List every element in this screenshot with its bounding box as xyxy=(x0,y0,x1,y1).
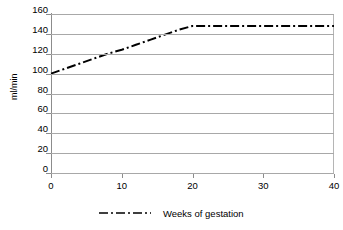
dash-dot-line-icon xyxy=(99,208,151,218)
y-tick-mark-140 xyxy=(46,34,51,35)
gridline-y-40 xyxy=(51,133,334,134)
chart-container: ml/min 020406080100120140160 Weeks of ge… xyxy=(0,0,343,230)
y-tick-mark-40 xyxy=(46,133,51,134)
y-tick-mark-100 xyxy=(46,74,51,75)
gridline-y-120 xyxy=(51,54,334,55)
y-tick-label-80: 80 xyxy=(22,85,48,95)
y-tick-label-140: 140 xyxy=(22,25,48,35)
x-tick-label-0: 0 xyxy=(36,180,66,191)
gridline-y-160 xyxy=(51,14,334,15)
y-tick-label-60: 60 xyxy=(22,104,48,114)
gridline-y-20 xyxy=(51,153,334,154)
plot-area xyxy=(51,14,334,173)
x-tick-label-10: 10 xyxy=(107,180,137,191)
y-tick-mark-80 xyxy=(46,94,51,95)
y-axis-title: ml/min xyxy=(9,40,19,100)
chart-legend: Weeks of gestation xyxy=(99,205,244,221)
x-tick-mark-40 xyxy=(334,174,335,178)
x-tick-label-40: 40 xyxy=(319,180,343,191)
y-tick-label-20: 20 xyxy=(22,144,48,154)
y-tick-label-100: 100 xyxy=(22,65,48,75)
x-tick-mark-0 xyxy=(51,174,52,178)
y-tick-label-160: 160 xyxy=(22,5,48,15)
y-tick-mark-20 xyxy=(46,153,51,154)
gridline-y-60 xyxy=(51,113,334,114)
gridline-y-80 xyxy=(51,94,334,95)
y-tick-mark-60 xyxy=(46,113,51,114)
y-tick-label-40: 40 xyxy=(22,124,48,134)
y-tick-label-120: 120 xyxy=(22,45,48,55)
gridline-y-140 xyxy=(51,34,334,35)
x-tick-mark-10 xyxy=(122,174,123,178)
x-tick-mark-20 xyxy=(193,174,194,178)
x-tick-mark-30 xyxy=(263,174,264,178)
legend-label-weeks-of-gestation: Weeks of gestation xyxy=(163,208,244,219)
x-tick-label-20: 20 xyxy=(178,180,208,191)
gridline-y-100 xyxy=(51,74,334,75)
y-tick-mark-160 xyxy=(46,14,51,15)
x-tick-label-30: 30 xyxy=(248,180,278,191)
y-tick-mark-120 xyxy=(46,54,51,55)
y-axis-tick-labels: 020406080100120140160 xyxy=(22,10,48,173)
y-tick-label-0: 0 xyxy=(22,164,48,174)
